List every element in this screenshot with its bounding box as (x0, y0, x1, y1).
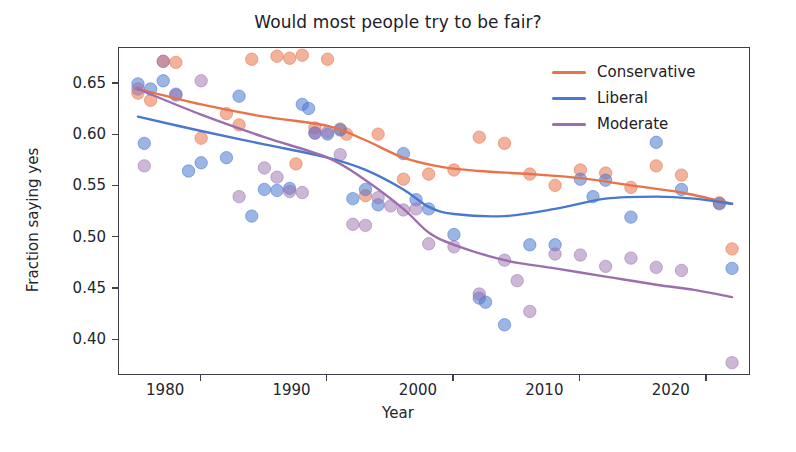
scatter-point (309, 127, 321, 139)
scatter-point (271, 171, 283, 183)
scatter-point (246, 210, 258, 222)
scatter-point (524, 305, 536, 317)
scatter-point (473, 288, 485, 300)
scatter-point (233, 190, 245, 202)
figure: Would most people try to be fair? Fracti… (0, 0, 796, 452)
scatter-point (195, 157, 207, 169)
scatter-point (359, 183, 371, 195)
scatter-point (195, 132, 207, 144)
legend-label-liberal: Liberal (597, 89, 648, 107)
y-tick-label: 0.55 (46, 176, 106, 194)
legend-swatch-moderate (552, 123, 586, 126)
scatter-point (549, 248, 561, 260)
legend-label-moderate: Moderate (597, 115, 668, 133)
scatter-point (422, 168, 434, 180)
scatter-point (359, 219, 371, 231)
scatter-point (625, 252, 637, 264)
scatter-point (511, 274, 523, 286)
legend-label-conservative: Conservative (597, 63, 696, 81)
x-tick-label: 1980 (130, 381, 200, 399)
y-tick-label: 0.50 (46, 228, 106, 246)
scatter-point (220, 151, 232, 163)
scatter-point (726, 243, 738, 255)
scatter-point (138, 137, 150, 149)
y-tick-label: 0.60 (46, 125, 106, 143)
scatter-point (498, 319, 510, 331)
scatter-point (726, 262, 738, 274)
scatter-point (625, 211, 637, 223)
scatter-point (574, 249, 586, 261)
scatter-point (296, 49, 308, 61)
x-tick-label: 2020 (636, 381, 706, 399)
x-tick-label: 2010 (509, 381, 579, 399)
scatter-point (524, 239, 536, 251)
legend-swatch-conservative (552, 71, 586, 74)
scatter-point (157, 75, 169, 87)
scatter-point (372, 128, 384, 140)
scatter-point (410, 203, 422, 215)
scatter-point (271, 50, 283, 62)
scatter-point (296, 186, 308, 198)
y-axis-label: Fraction saying yes (24, 105, 42, 335)
y-tick-label: 0.40 (46, 330, 106, 348)
scatter-point (448, 228, 460, 240)
scatter-point (195, 75, 207, 87)
x-tick-label: 1990 (257, 381, 327, 399)
scatter-point (498, 137, 510, 149)
scatter-point (290, 158, 302, 170)
x-tick-label: 2000 (383, 381, 453, 399)
scatter-point (473, 131, 485, 143)
scatter-point (246, 53, 258, 65)
scatter-point (675, 169, 687, 181)
scatter-point (549, 179, 561, 191)
legend-item-conservative: Conservative (552, 59, 696, 85)
scatter-point (271, 184, 283, 196)
scatter-point (422, 238, 434, 250)
scatter-point (138, 160, 150, 172)
scatter-point (599, 260, 611, 272)
scatter-point (397, 173, 409, 185)
y-tick-label: 0.45 (46, 279, 106, 297)
scatter-point (283, 185, 295, 197)
scatter-point (182, 165, 194, 177)
scatter-point (650, 160, 662, 172)
legend-item-moderate: Moderate (552, 111, 696, 137)
scatter-point (258, 162, 270, 174)
chart-title: Would most people try to be fair? (0, 12, 796, 32)
scatter-point (347, 192, 359, 204)
scatter-point (321, 53, 333, 65)
scatter-point (625, 181, 637, 193)
scatter-point (650, 261, 662, 273)
y-tick-label: 0.65 (46, 74, 106, 92)
scatter-point (258, 183, 270, 195)
scatter-point (726, 356, 738, 368)
x-axis-label: Year (0, 404, 796, 422)
scatter-point (170, 56, 182, 68)
scatter-point (675, 264, 687, 276)
scatter-point (283, 52, 295, 64)
scatter-point (302, 102, 314, 114)
scatter-point (347, 218, 359, 230)
legend-swatch-liberal (552, 97, 586, 100)
scatter-point (157, 55, 169, 67)
legend: Conservative Liberal Moderate (548, 57, 700, 139)
scatter-point (233, 90, 245, 102)
legend-item-liberal: Liberal (552, 85, 696, 111)
